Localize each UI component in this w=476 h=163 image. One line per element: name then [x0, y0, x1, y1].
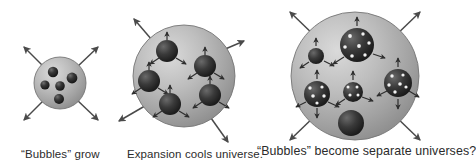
inner-sphere	[54, 94, 64, 104]
galaxy-dot	[356, 86, 359, 89]
inner-sphere	[384, 69, 412, 97]
inner-sphere	[156, 40, 178, 62]
galaxy-dot	[315, 101, 318, 104]
inner-universe	[304, 81, 330, 107]
inner-sphere	[194, 55, 216, 77]
galaxy-dot	[367, 41, 370, 44]
galaxy-dot	[343, 45, 347, 49]
galaxy-dot	[348, 93, 351, 96]
panel-2-group	[119, 19, 244, 142]
inner-sphere	[199, 84, 221, 106]
galaxy-dot	[361, 32, 364, 35]
caption-panel-3: “Bubbles” become separate universes?	[257, 145, 476, 158]
inner-sphere	[48, 67, 58, 77]
galaxy-dot	[363, 53, 366, 56]
inner-universe	[340, 28, 374, 62]
inner-sphere	[67, 73, 78, 84]
galaxy-dot	[311, 94, 315, 98]
galaxy-dot	[393, 90, 396, 93]
galaxy-dot	[347, 86, 350, 89]
galaxy-dot	[308, 86, 311, 89]
inner-sphere	[343, 82, 363, 102]
galaxy-dot	[357, 94, 360, 97]
panel-1-group	[24, 47, 98, 120]
galaxy-dot	[398, 82, 402, 86]
caption-panel-1: “Bubbles” grow	[21, 148, 100, 161]
galaxy-dot	[387, 83, 390, 86]
galaxy-dot	[350, 54, 354, 58]
caption-panel-2: Expansion cools universe.	[127, 148, 263, 161]
inner-universe	[343, 82, 363, 102]
inner-universe	[384, 69, 412, 97]
galaxy-dot	[404, 85, 407, 88]
galaxy-dot	[322, 94, 325, 97]
panel-3-group	[290, 12, 420, 140]
inner-sphere	[159, 93, 181, 115]
inner-sphere	[40, 80, 49, 89]
galaxy-dot	[320, 85, 323, 88]
arrow-up-right	[76, 47, 98, 68]
inner-sphere	[338, 110, 364, 136]
galaxy-dot	[348, 34, 352, 38]
inner-sphere	[340, 28, 374, 62]
galaxy-dot	[401, 73, 404, 76]
arrow-down-right	[76, 99, 98, 120]
galaxy-dot	[390, 74, 393, 77]
inner-sphere	[55, 81, 65, 91]
galaxy-dot	[357, 44, 361, 48]
inner-sphere	[138, 70, 160, 92]
inner-sphere	[308, 48, 324, 64]
